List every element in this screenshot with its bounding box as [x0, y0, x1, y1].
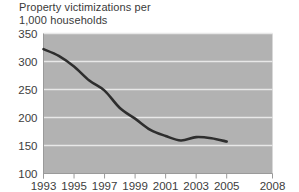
y-axis-tick-label: 250 [18, 84, 37, 96]
x-axis-tick-label: 1995 [61, 180, 87, 192]
plot-background-group [44, 34, 273, 174]
x-axis-tick-label: 1999 [122, 180, 148, 192]
y-axis-tick-label: 350 [18, 28, 37, 40]
x-axis-tick-label: 1993 [31, 180, 57, 192]
property-victimization-chart: Property victimizations per 1,000 househ… [0, 0, 299, 192]
y-axis-tick-label: 100 [18, 168, 37, 180]
x-axis-tick-label: 1997 [92, 180, 118, 192]
chart-plot-area: 100150200250300350 199319951997199920012… [0, 0, 299, 192]
y-axis-group: 100150200250300350 [18, 28, 43, 180]
x-axis-tick-label: 2008 [260, 180, 286, 192]
y-axis-tick-label: 200 [18, 112, 37, 124]
x-axis-tick-label: 2003 [183, 180, 209, 192]
plot-background [44, 34, 273, 174]
y-axis-tick-label: 150 [18, 140, 37, 152]
x-axis-tick-label: 2001 [153, 180, 179, 192]
y-axis-tick-label: 300 [18, 56, 37, 68]
x-axis-group: 19931995199719992001200320052008 [31, 174, 286, 192]
x-axis-tick-label: 2005 [214, 180, 240, 192]
